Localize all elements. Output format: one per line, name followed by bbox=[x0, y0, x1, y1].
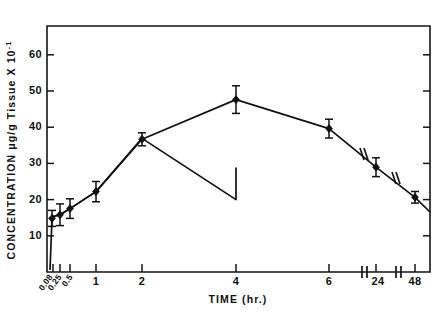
y-axis-title-text: CONCENTRATION μg/g Tissue X 10 bbox=[5, 49, 17, 259]
xtick-label-0-5: 0.5 bbox=[59, 272, 74, 288]
svg-text:CONCENTRATION μg/g Tissue X 1: CONCENTRATION μg/g Tissue X 10-1 bbox=[4, 41, 17, 260]
ytick-label-40: 40 bbox=[29, 120, 42, 132]
ytick-label-10: 10 bbox=[29, 229, 42, 241]
xtick-label-1: 1 bbox=[93, 275, 99, 287]
ytick-label-60: 60 bbox=[29, 48, 42, 60]
ytick-label-30: 30 bbox=[29, 156, 42, 168]
xtick-label-2: 2 bbox=[139, 275, 145, 287]
x-axis-title: TIME (hr.) bbox=[209, 293, 268, 305]
data-line-concentration bbox=[52, 138, 236, 218]
xtick-label-48: 48 bbox=[409, 275, 422, 287]
plot-break-marks bbox=[360, 148, 400, 184]
data-point-4 bbox=[233, 96, 240, 104]
data-polyline bbox=[52, 100, 430, 219]
y-axis-ticks bbox=[47, 55, 430, 236]
xtick-label-4: 4 bbox=[233, 275, 240, 287]
ytick-label-50: 50 bbox=[29, 84, 42, 96]
xtick-label-0-5-group: 0.5 bbox=[59, 272, 74, 288]
data-point-0-5 bbox=[67, 205, 74, 213]
xtick-label-24: 24 bbox=[372, 275, 385, 287]
data-point-0-25 bbox=[57, 211, 64, 219]
xtick-label-6: 6 bbox=[326, 275, 332, 287]
ytick-label-20: 20 bbox=[29, 193, 42, 205]
figure-container: 10 20 30 40 50 60 CONCENTRATION μg/g Tis… bbox=[0, 0, 438, 314]
x-axis-ticks bbox=[53, 264, 415, 272]
plot-frame bbox=[47, 26, 430, 272]
concentration-vs-time-chart: 10 20 30 40 50 60 CONCENTRATION μg/g Tis… bbox=[0, 0, 438, 314]
y-axis-title: CONCENTRATION μg/g Tissue X 10-1 bbox=[4, 41, 17, 260]
y-axis-title-exponent: -1 bbox=[4, 41, 13, 50]
